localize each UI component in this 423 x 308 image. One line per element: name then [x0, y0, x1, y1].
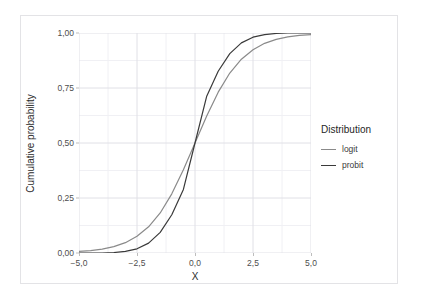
cut-off-text-sliver	[0, 0, 423, 8]
x-tick-mark	[253, 253, 254, 256]
x-tick-label: −5,0	[71, 258, 88, 268]
y-axis-title: Cumulative probability	[23, 33, 37, 253]
x-axis-title-label: X	[192, 271, 199, 282]
legend-item-logit[interactable]: logit	[321, 142, 397, 156]
y-tick-label: 0,00	[57, 248, 74, 258]
y-tick-mark	[76, 198, 79, 199]
y-tick-label: 1,00	[57, 28, 74, 38]
y-tick-mark	[76, 88, 79, 89]
x-tick-label: 2,5	[247, 258, 259, 268]
y-tick-mark	[76, 33, 79, 34]
legend-item-label: logit	[342, 144, 358, 154]
y-tick-mark	[76, 143, 79, 144]
plot-area: 0,000,250,500,751,00−5,0−2,50,02,55,0	[79, 33, 311, 253]
legend-item-label: probit	[342, 160, 363, 170]
legend-key-line-icon	[321, 160, 336, 170]
series-line-probit	[79, 33, 311, 253]
y-tick-label: 0,75	[57, 83, 74, 93]
x-tick-mark	[137, 253, 138, 256]
legend-title: Distribution	[321, 124, 397, 135]
y-axis-title-label: Cumulative probability	[25, 94, 36, 192]
x-tick-label: −2,5	[129, 258, 146, 268]
x-tick-mark	[79, 253, 80, 256]
legend-key-line-icon	[321, 144, 336, 154]
x-tick-mark	[195, 253, 196, 256]
series-lines	[79, 33, 311, 253]
x-tick-label: 5,0	[305, 258, 317, 268]
y-tick-label: 0,25	[57, 193, 74, 203]
legend: Distribution logitprobit	[321, 124, 397, 174]
x-tick-label: 0,0	[189, 258, 201, 268]
x-tick-mark	[311, 253, 312, 256]
legend-item-probit[interactable]: probit	[321, 158, 397, 172]
legend-items: logitprobit	[321, 142, 397, 172]
x-axis-title: X	[79, 271, 311, 282]
chart-figure: Cumulative probability 0,000,250,500,751…	[20, 15, 398, 284]
y-tick-label: 0,50	[57, 138, 74, 148]
